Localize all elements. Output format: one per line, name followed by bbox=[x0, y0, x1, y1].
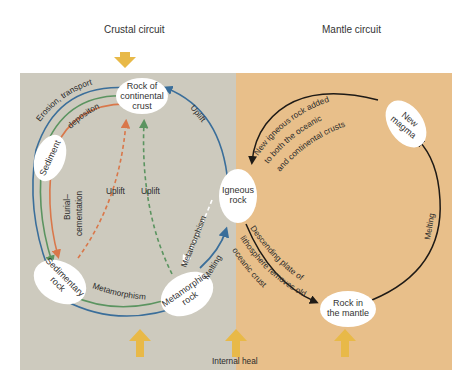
label-cementation: cementation bbox=[74, 190, 84, 236]
svg-text:crust: crust bbox=[132, 101, 152, 111]
svg-text:Igneous: Igneous bbox=[222, 185, 255, 195]
svg-text:rock: rock bbox=[229, 195, 247, 205]
svg-text:the mantle: the mantle bbox=[327, 308, 369, 318]
label-burial: Burial– bbox=[62, 194, 72, 220]
label-internal-heat: Internal heal bbox=[212, 356, 258, 366]
svg-text:Rock of: Rock of bbox=[127, 81, 158, 91]
heat-arrow-top bbox=[114, 52, 136, 68]
label-uplift-green: Uplift bbox=[141, 186, 161, 196]
svg-text:Rock in: Rock in bbox=[333, 298, 363, 308]
node-igneous-rock: Igneous rock bbox=[219, 169, 257, 223]
node-rock-in-mantle: Rock in the mantle bbox=[320, 291, 376, 327]
svg-text:continental: continental bbox=[120, 91, 164, 101]
rock-cycle-diagram: Rock of continental crust Sediment Sedim… bbox=[0, 0, 467, 386]
node-continental-crust: Rock of continental crust bbox=[116, 78, 168, 114]
label-uplift-orange: Uplift bbox=[106, 186, 126, 196]
